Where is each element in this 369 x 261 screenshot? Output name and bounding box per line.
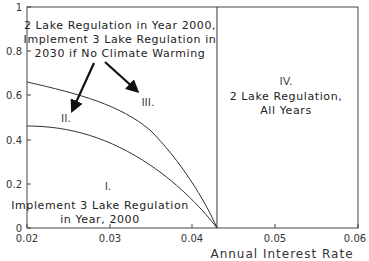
y-tick-1: 1 bbox=[16, 2, 22, 13]
x-axis-label: Annual Interest Rate bbox=[210, 247, 353, 261]
x-tick-0.04: 0.04 bbox=[181, 233, 203, 244]
x-tick-0.05: 0.05 bbox=[264, 233, 286, 244]
x-tick-0.03: 0.03 bbox=[99, 233, 121, 244]
annotation-line-3: 2030 if No Climate Warming bbox=[35, 47, 206, 60]
region-III-label: III. bbox=[141, 96, 154, 109]
x-tick-0.06: 0.06 bbox=[344, 233, 366, 244]
y-tick-0.6: 0.6 bbox=[6, 90, 22, 101]
y-tick-0.8: 0.8 bbox=[6, 46, 22, 57]
region-IV-label: IV. bbox=[280, 75, 293, 88]
region-II-label: II. bbox=[61, 112, 71, 125]
region-IV-text-2: All Years bbox=[260, 104, 312, 117]
chart-canvas: 0 0.2 0.4 0.6 0.8 1 0.02 0.03 0.04 0.05 … bbox=[0, 0, 369, 261]
y-tick-0.2: 0.2 bbox=[6, 179, 22, 190]
arrow-to-region-II bbox=[73, 63, 94, 109]
region-I-text-1: Implement 3 Lake Regulation bbox=[11, 199, 189, 212]
annotation-line-1: 2 Lake Regulation in Year 2000, bbox=[24, 19, 216, 32]
arrow-to-region-III bbox=[105, 62, 136, 90]
region-I-label: I. bbox=[105, 180, 112, 193]
region-IV-text-1: 2 Lake Regulation, bbox=[230, 90, 343, 103]
annotation-line-2: Implement 3 Lake Regulation in bbox=[24, 33, 217, 46]
y-tick-0.4: 0.4 bbox=[6, 135, 22, 146]
region-I-text-2: in Year, 2000 bbox=[60, 213, 140, 226]
x-tick-0.02: 0.02 bbox=[16, 233, 38, 244]
